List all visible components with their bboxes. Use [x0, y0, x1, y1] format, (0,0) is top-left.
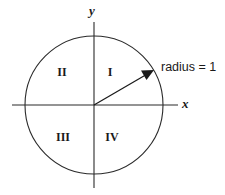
quadrant-label-iii: III [56, 130, 70, 144]
quadrant-label-iv: IV [105, 130, 119, 144]
quadrant-label-i: I [108, 65, 113, 79]
quadrant-label-ii: II [57, 65, 67, 79]
unit-circle-figure: y x I II III IV radius = 1 [0, 0, 225, 195]
radius-annotation-label: radius = 1 [161, 60, 216, 74]
radius-arrowhead-icon [141, 70, 154, 80]
x-axis-label: x [181, 96, 189, 111]
y-axis-label: y [87, 3, 95, 18]
radius-vector-line [94, 73, 149, 105]
unit-circle-diagram: y x I II III IV radius = 1 [0, 0, 225, 195]
